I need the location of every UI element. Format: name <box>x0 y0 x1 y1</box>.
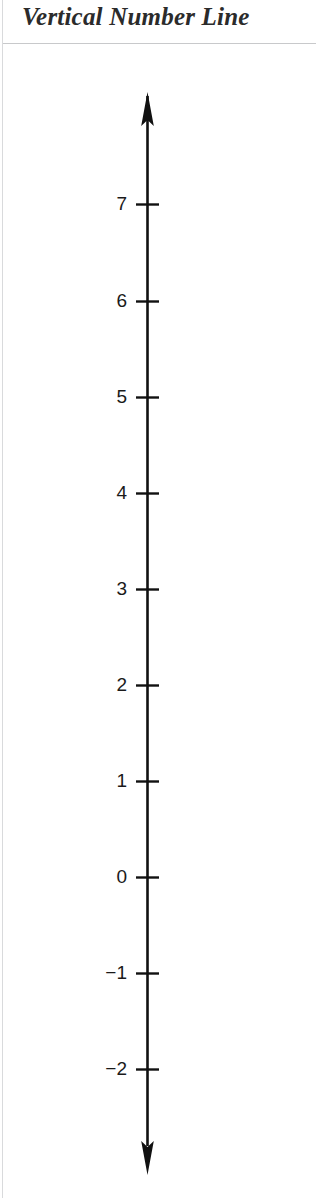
tick-label: 2 <box>116 674 127 695</box>
tick-label: 4 <box>116 482 127 503</box>
number-line-figure: 7 6 5 4 3 <box>0 44 316 1198</box>
tick-row: 0 <box>116 866 159 887</box>
vertical-number-line-svg: 7 6 5 4 3 <box>0 44 316 1198</box>
tick-group: 7 6 5 4 3 <box>105 193 159 1079</box>
tick-label: 6 <box>116 290 127 311</box>
tick-row: −2 <box>105 1058 159 1079</box>
axis-arrow-bottom-icon <box>141 1141 154 1175</box>
tick-row: 3 <box>116 578 159 599</box>
tick-label: −1 <box>105 962 127 983</box>
tick-row: 7 <box>116 193 159 214</box>
tick-row: 6 <box>116 290 159 311</box>
tick-row: 2 <box>116 674 159 695</box>
tick-label: 0 <box>116 866 127 887</box>
tick-row: 4 <box>116 482 159 503</box>
tick-label: 5 <box>116 386 127 407</box>
tick-label: 7 <box>116 193 127 214</box>
tick-label: 3 <box>116 578 127 599</box>
page-title: Vertical Number Line <box>22 1 250 33</box>
tick-row: 5 <box>116 386 159 407</box>
tick-label: 1 <box>116 770 127 791</box>
page-header: Vertical Number Line <box>0 0 316 44</box>
tick-label: −2 <box>105 1058 127 1079</box>
tick-row: −1 <box>105 962 159 983</box>
tick-row: 1 <box>116 770 159 791</box>
page-root: Vertical Number Line 7 6 <box>0 0 316 1198</box>
